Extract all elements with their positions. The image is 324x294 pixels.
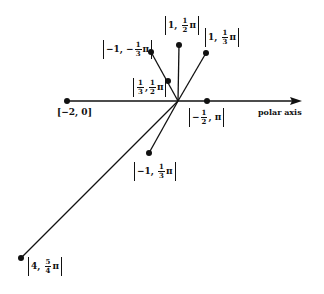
point-p8: [18, 255, 24, 261]
ray-p2: [178, 53, 206, 101]
point-p5: [64, 98, 70, 104]
ray-p1: [178, 45, 179, 101]
point-p1: [176, 42, 182, 48]
label-p1: 1, 12π: [165, 16, 199, 35]
ray-p7: [149, 101, 178, 153]
label-p3: −1, −13π: [103, 40, 152, 59]
point-p7: [146, 150, 152, 156]
label-p8: 4, 54π: [28, 257, 62, 276]
label-p4: 13,12π: [133, 78, 166, 97]
label-p5: [−2, 0]: [57, 108, 92, 117]
polar-axis-label: polar axis: [258, 108, 302, 116]
polar-diagram: [0, 0, 324, 294]
label-p2: 1, 13π: [205, 28, 239, 47]
label-p7: −1, 13π: [134, 162, 176, 181]
point-p2: [203, 50, 209, 56]
point-p6: [204, 98, 210, 104]
label-p6: −12, π: [189, 108, 224, 127]
